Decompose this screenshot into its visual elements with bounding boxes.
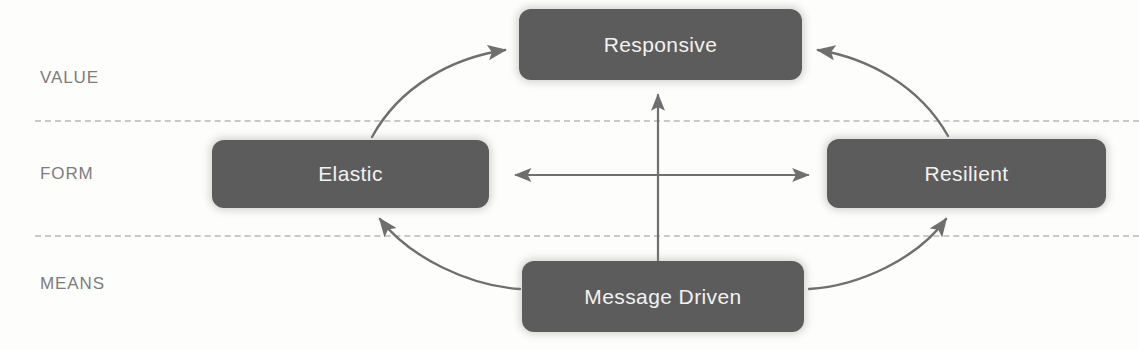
arrow-message-to-elastic	[380, 219, 520, 289]
arrow-resilient-to-responsive	[818, 50, 948, 136]
node-responsive-label: Responsive	[604, 33, 718, 57]
node-responsive[interactable]: Responsive	[519, 9, 802, 80]
band-label-form: FORM	[40, 164, 94, 184]
node-elastic[interactable]: Elastic	[212, 140, 489, 208]
node-resilient-label: Resilient	[924, 162, 1008, 186]
node-message-driven-label: Message Driven	[584, 285, 741, 309]
arrow-message-to-resilient	[809, 219, 946, 289]
node-resilient[interactable]: Resilient	[827, 139, 1106, 208]
diagram-canvas: VALUE FORM MEANS Responsive Elastic	[0, 0, 1139, 350]
band-divider-form-means	[35, 235, 1139, 237]
arrow-elastic-to-responsive	[372, 50, 505, 137]
node-message-driven[interactable]: Message Driven	[522, 261, 804, 332]
band-label-value: VALUE	[40, 68, 99, 88]
band-label-means: MEANS	[40, 274, 105, 294]
node-elastic-label: Elastic	[318, 162, 383, 186]
band-divider-value-form	[35, 120, 1139, 122]
